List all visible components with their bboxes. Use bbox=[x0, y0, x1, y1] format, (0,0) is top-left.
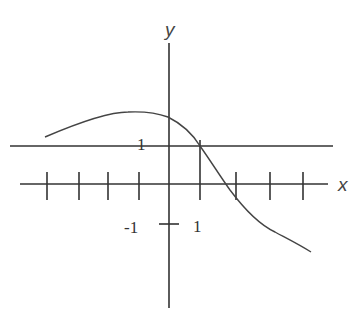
x-ticks bbox=[47, 140, 303, 224]
y-tick-label-one: 1 bbox=[137, 135, 146, 154]
chart: y x 1 1 -1 bbox=[0, 0, 355, 322]
x-tick-label-one: 1 bbox=[193, 217, 202, 236]
curve bbox=[45, 112, 311, 252]
y-tick-label-neg-one: -1 bbox=[124, 218, 138, 237]
x-axis-label: x bbox=[337, 174, 349, 195]
y-axis-label: y bbox=[163, 19, 176, 40]
